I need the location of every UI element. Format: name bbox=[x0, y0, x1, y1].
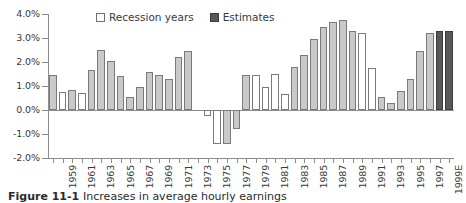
bar-1986 bbox=[320, 27, 328, 110]
x-axis-tick bbox=[150, 158, 151, 163]
x-axis-tick-label: 1981 bbox=[279, 165, 290, 188]
x-axis-tick bbox=[295, 158, 296, 163]
x-axis-tick-label: 1983 bbox=[299, 165, 310, 188]
x-axis-tick bbox=[237, 158, 238, 163]
bar-1977 bbox=[233, 110, 241, 129]
x-axis-tick bbox=[420, 158, 421, 163]
x-axis-tick bbox=[266, 158, 267, 163]
bar-1959 bbox=[59, 92, 67, 110]
x-axis-tick bbox=[130, 158, 131, 163]
y-axis-tick-label: 2.0% bbox=[0, 56, 40, 67]
bar-1985 bbox=[310, 39, 318, 110]
x-axis-tick bbox=[333, 158, 334, 163]
x-axis-tick bbox=[382, 158, 383, 163]
x-axis-tick bbox=[208, 158, 209, 163]
x-axis-tick bbox=[188, 158, 189, 163]
x-axis-tick bbox=[121, 158, 122, 163]
x-axis-tick-label: 1979 bbox=[260, 165, 271, 188]
x-axis-tick-label: 1965 bbox=[125, 165, 136, 188]
x-axis-tick bbox=[275, 158, 276, 163]
x-axis-tick bbox=[227, 158, 228, 163]
bar-1987 bbox=[329, 22, 337, 110]
x-axis-tick-label: 1997 bbox=[434, 165, 445, 188]
bar-1996 bbox=[416, 51, 424, 110]
x-axis-tick-label: 1999E bbox=[453, 165, 464, 194]
bar-1976 bbox=[223, 110, 231, 144]
x-axis-tick bbox=[353, 158, 354, 163]
x-axis-tick-label: 1971 bbox=[183, 165, 194, 188]
x-axis-tick bbox=[430, 158, 431, 163]
x-axis-tick bbox=[401, 158, 402, 163]
x-axis-tick-label: 1975 bbox=[221, 165, 232, 188]
y-axis-tick-label: 4.0% bbox=[0, 8, 40, 19]
bar-1979 bbox=[252, 75, 260, 110]
x-axis-tick-label: 1959 bbox=[67, 165, 78, 188]
x-axis-tick bbox=[256, 158, 257, 163]
x-axis-tick-label: 1961 bbox=[86, 165, 97, 188]
y-axis-tick-label: 1.0% bbox=[0, 80, 40, 91]
x-axis-tick bbox=[304, 158, 305, 163]
x-axis-tick bbox=[343, 158, 344, 163]
x-axis-tick-label: 1977 bbox=[241, 165, 252, 188]
bar-1974 bbox=[204, 110, 212, 116]
x-axis-tick-label: 1995 bbox=[415, 165, 426, 188]
bar-1994 bbox=[397, 91, 405, 110]
x-axis-tick-label: 1967 bbox=[144, 165, 155, 188]
y-axis-tick-label: 0.0% bbox=[0, 104, 40, 115]
x-axis-tick-label: 1987 bbox=[337, 165, 348, 188]
x-axis-tick bbox=[449, 158, 450, 163]
x-axis-tick bbox=[246, 158, 247, 163]
y-axis-tick-label: -2.0% bbox=[0, 152, 40, 163]
bar-1981 bbox=[271, 74, 279, 110]
bar-1960 bbox=[68, 90, 76, 110]
bar-1984 bbox=[300, 55, 308, 110]
bar-1962 bbox=[88, 70, 96, 110]
bar-1992 bbox=[378, 97, 386, 110]
x-axis-tick bbox=[72, 158, 73, 163]
caption-label: Figure 11-1 bbox=[8, 190, 79, 203]
caption-text: Increases in average hourly earnings bbox=[83, 190, 287, 203]
x-axis-tick bbox=[159, 158, 160, 163]
figure-caption: Figure 11-1 Increases in average hourly … bbox=[8, 190, 287, 203]
x-axis-tick bbox=[217, 158, 218, 163]
bar-1989 bbox=[349, 31, 357, 110]
bar-1978 bbox=[242, 75, 250, 110]
bar-1998 bbox=[436, 31, 444, 110]
x-axis-tick bbox=[101, 158, 102, 163]
bar-1993 bbox=[387, 103, 395, 110]
x-axis-tick-label: 1989 bbox=[357, 165, 368, 188]
bar-1988 bbox=[339, 20, 347, 110]
x-axis-tick bbox=[314, 158, 315, 163]
x-axis-tick bbox=[372, 158, 373, 163]
bar-1997 bbox=[426, 33, 434, 110]
bar-1970 bbox=[165, 79, 173, 110]
x-axis-tick bbox=[111, 158, 112, 163]
bar-1972 bbox=[184, 51, 192, 110]
x-axis-tick bbox=[411, 158, 412, 163]
bar-1980 bbox=[262, 87, 270, 110]
bar-1969 bbox=[155, 75, 163, 110]
y-axis-tick bbox=[42, 158, 49, 159]
x-axis-tick bbox=[285, 158, 286, 163]
bar-1968 bbox=[146, 72, 154, 110]
bar-1991 bbox=[368, 68, 376, 110]
bar-1965 bbox=[117, 76, 125, 110]
x-axis-line bbox=[48, 158, 454, 159]
bar-1990 bbox=[358, 33, 366, 110]
x-axis-tick-label: 1973 bbox=[202, 165, 213, 188]
x-axis-tick-label: 1969 bbox=[163, 165, 174, 188]
bar-1995 bbox=[407, 79, 415, 110]
x-axis-tick bbox=[391, 158, 392, 163]
x-axis-tick bbox=[169, 158, 170, 163]
bar-1982 bbox=[281, 94, 289, 110]
bar-1999E bbox=[445, 31, 453, 110]
x-axis-tick-label: 1991 bbox=[376, 165, 387, 188]
x-axis-tick bbox=[82, 158, 83, 163]
bar-1983 bbox=[291, 67, 299, 110]
bar-1964 bbox=[107, 61, 115, 110]
x-axis-tick bbox=[140, 158, 141, 163]
x-axis-tick bbox=[53, 158, 54, 163]
x-axis-tick bbox=[362, 158, 363, 163]
bar-1975 bbox=[213, 110, 221, 144]
bar-1966 bbox=[126, 97, 134, 110]
